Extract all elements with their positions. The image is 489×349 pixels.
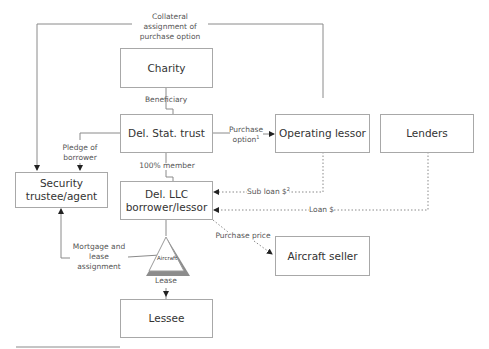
lenders-box: Lenders [380, 114, 474, 153]
lessee-box: Lessee [120, 299, 213, 338]
pledge-label: Pledge of borrower [57, 143, 103, 163]
member-label: 100% member [136, 161, 198, 171]
aircraft-seller-box: Aircraft seller [275, 236, 370, 276]
llc-label-1: Del. LLC [145, 188, 188, 201]
lessee-label: Lessee [149, 312, 185, 325]
llc-label-2: borrower/lessor [126, 201, 208, 214]
trust-label: Del. Stat. trust [128, 127, 205, 140]
sub-loan-label: Sub loan $2 [247, 187, 289, 197]
operating-lessor-box: Operating lessor [275, 114, 370, 153]
security-trustee-label-1: Security [40, 177, 83, 190]
loan-label: Loan $ [309, 205, 334, 215]
mortgage-label: Mortgage and lease assignment [68, 242, 130, 272]
lease-label: Lease [150, 276, 182, 286]
llc-box: Del. LLC borrower/lessor [120, 181, 213, 220]
charity-label: Charity [148, 62, 186, 75]
collateral-assignment-label: Collateral assignment of purchase option [132, 12, 208, 42]
aircraft-label: Aircraft [154, 253, 180, 263]
security-trustee-label-2: trustee/agent [26, 190, 97, 203]
operating-lessor-label: Operating lessor [279, 127, 366, 140]
trust-box: Del. Stat. trust [120, 114, 213, 153]
purchase-price-label: Purchase price [215, 231, 271, 241]
lenders-label: Lenders [406, 127, 448, 140]
charity-box: Charity [120, 48, 213, 88]
beneficiary-label: Beneficiary [140, 95, 192, 105]
security-trustee-box: Security trustee/agent [15, 172, 108, 208]
purchase-option-label: Purchase option1 [228, 125, 264, 145]
aircraft-seller-label: Aircraft seller [287, 250, 357, 263]
